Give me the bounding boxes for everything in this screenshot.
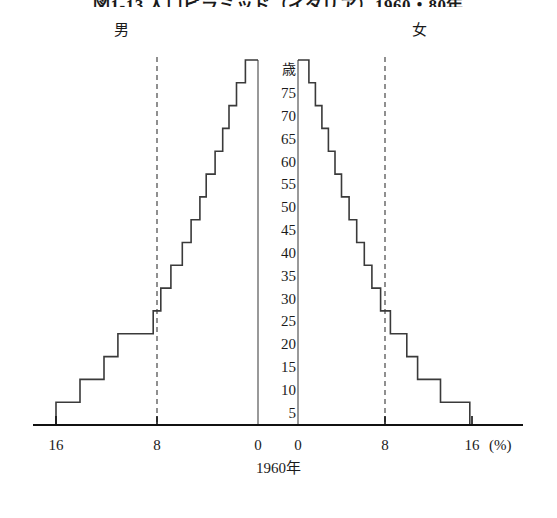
age-tick-15: 15 bbox=[256, 360, 296, 375]
age-tick-75: 75 bbox=[256, 86, 296, 101]
age-tick-5: 5 bbox=[256, 406, 296, 421]
age-tick-55: 55 bbox=[256, 177, 296, 192]
figure-caption: 1960年 bbox=[0, 461, 557, 476]
x-tick-label-right-0: 0 bbox=[278, 438, 318, 453]
age-tick-65: 65 bbox=[256, 132, 296, 147]
age-tick-20: 20 bbox=[256, 337, 296, 352]
figure-root: 図1-13 人口ピラミッド（イタリア）1960・80年 男 女 歳7570656… bbox=[0, 0, 557, 518]
age-tick-40: 40 bbox=[256, 246, 296, 261]
age-tick-35: 35 bbox=[256, 269, 296, 284]
x-axis-unit-label: (%) bbox=[489, 438, 512, 453]
age-tick-70: 70 bbox=[256, 109, 296, 124]
age-tick-45: 45 bbox=[256, 223, 296, 238]
age-tick-10: 10 bbox=[256, 383, 296, 398]
female-pyramid-outline bbox=[298, 60, 470, 425]
age-tick-50: 50 bbox=[256, 200, 296, 215]
x-tick-label-left-0: 0 bbox=[238, 438, 278, 453]
age-tick-60: 60 bbox=[256, 155, 296, 170]
age-tick-25: 25 bbox=[256, 314, 296, 329]
x-tick-label-left-8: 8 bbox=[137, 438, 177, 453]
x-tick-label-right-8: 8 bbox=[365, 438, 405, 453]
x-tick-label-right-16: 16 bbox=[452, 438, 492, 453]
age-tick-30: 30 bbox=[256, 292, 296, 307]
age-axis-unit: 歳 bbox=[256, 63, 296, 77]
x-tick-label-left-16: 16 bbox=[36, 438, 76, 453]
